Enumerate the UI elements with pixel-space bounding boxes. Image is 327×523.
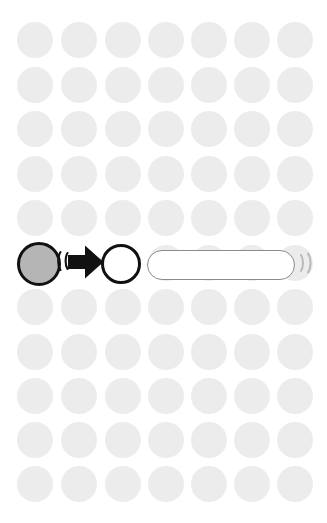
diagram-canvas: A grey filled circle emits a signal and … <box>0 0 327 523</box>
source-node[interactable] <box>17 242 61 286</box>
signal-wave-right-icon <box>298 252 315 274</box>
receiver-capsule[interactable] <box>147 250 295 280</box>
diagram-foreground <box>0 0 327 523</box>
target-node[interactable] <box>101 244 141 284</box>
transfer-arrow-icon <box>68 245 104 279</box>
